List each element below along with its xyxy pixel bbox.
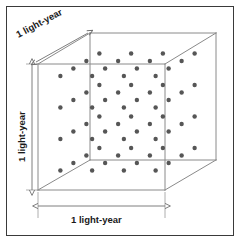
star-dot: [129, 83, 133, 87]
dimension-label-width: 1 light-year: [71, 214, 122, 225]
dimension-guides: [26, 64, 165, 218]
star-dot: [84, 59, 88, 63]
star-dot: [103, 161, 107, 165]
star-dot: [129, 51, 133, 55]
star-dot: [135, 129, 139, 133]
star-dot: [71, 161, 75, 165]
edge-depth-top-left: [38, 33, 90, 64]
star-dot: [97, 114, 101, 118]
star-dot: [122, 168, 126, 172]
star-dot: [116, 153, 120, 157]
star-dot: [71, 98, 75, 102]
star-dot: [129, 114, 133, 118]
star-dot: [71, 66, 75, 70]
star-dot: [58, 137, 62, 141]
star-dot: [122, 74, 126, 78]
star-dot: [90, 105, 94, 109]
star-dot: [179, 90, 183, 94]
star-dot: [148, 122, 152, 126]
star-dot: [148, 59, 152, 63]
star-dot: [148, 153, 152, 157]
star-dot: [97, 146, 101, 150]
star-dot: [116, 59, 120, 63]
star-dot: [179, 59, 183, 63]
star-dot: [71, 129, 75, 133]
star-dot: [161, 146, 165, 150]
cube-depth-edges: [38, 33, 216, 190]
star-dot: [58, 74, 62, 78]
star-dot: [166, 66, 170, 70]
star-dot: [179, 122, 183, 126]
star-dot: [103, 129, 107, 133]
star-dot: [192, 83, 196, 87]
star-dot: [97, 51, 101, 55]
cube-diagram: [0, 0, 245, 247]
star-dot: [153, 105, 157, 109]
star-dot: [116, 90, 120, 94]
star-dot: [103, 98, 107, 102]
star-dot: [135, 66, 139, 70]
star-dot: [153, 137, 157, 141]
edge-depth-top-right: [165, 33, 216, 64]
star-dot: [84, 153, 88, 157]
star-dot: [135, 161, 139, 165]
star-lattice: [58, 51, 197, 172]
star-dot: [192, 51, 196, 55]
star-dot: [129, 146, 133, 150]
star-dot: [84, 90, 88, 94]
star-dot: [148, 90, 152, 94]
star-dot: [84, 122, 88, 126]
cube-back-face: [90, 33, 216, 160]
dimension-label-height: 1 light-year: [16, 111, 27, 162]
star-dot: [166, 98, 170, 102]
edge-depth-bottom-left: [38, 160, 90, 190]
star-dot: [161, 114, 165, 118]
star-dot: [166, 161, 170, 165]
edge-depth-bottom-right: [165, 160, 216, 190]
star-dot: [90, 137, 94, 141]
star-dot: [58, 168, 62, 172]
star-dot: [122, 105, 126, 109]
star-dot: [192, 114, 196, 118]
star-dot: [166, 129, 170, 133]
star-dot: [90, 74, 94, 78]
star-dot: [90, 168, 94, 172]
star-dot: [135, 98, 139, 102]
star-dot: [161, 51, 165, 55]
cube-front-face: [38, 64, 165, 190]
star-dot: [116, 122, 120, 126]
star-dot: [103, 66, 107, 70]
star-dot: [97, 83, 101, 87]
dimension-arrows: [32, 33, 165, 206]
figure-root: 1 light-year 1 light-year 1 light-year: [0, 0, 245, 247]
star-dot: [179, 153, 183, 157]
star-dot: [122, 137, 126, 141]
star-dot: [192, 146, 196, 150]
cube-wireframe: [38, 33, 216, 190]
star-dot: [58, 105, 62, 109]
star-dot: [161, 83, 165, 87]
dimension-arrow-depth: [36, 33, 88, 62]
star-dot: [153, 74, 157, 78]
star-dot: [153, 168, 157, 172]
